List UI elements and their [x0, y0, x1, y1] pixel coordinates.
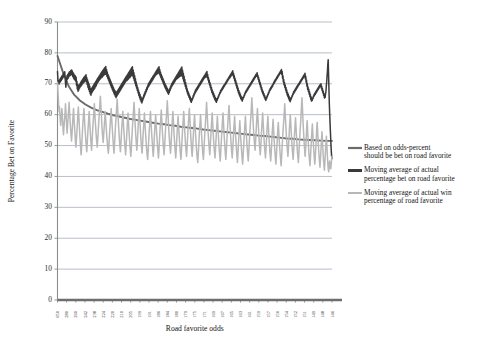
x-tick-label: 165 — [229, 310, 234, 318]
x-axis-title: Road favorite odds — [166, 324, 224, 333]
x-tick-label: 280 — [64, 310, 69, 318]
x-tick-label: 171 — [202, 311, 207, 318]
x-tick-label: 210 — [119, 310, 124, 318]
x-tick-label: 186 — [156, 310, 161, 318]
x-tick-label: 156 — [275, 310, 280, 318]
x-tick-label: 159 — [256, 310, 261, 318]
chart-container: 0102030405060708090 65028026024223822422… — [0, 0, 480, 340]
x-tick-label: 167 — [220, 310, 225, 318]
x-tick-label: 152 — [293, 311, 298, 318]
y-tick-label: 80 — [45, 48, 53, 57]
x-tick-label: 179 — [183, 310, 188, 318]
x-tick-label: 151 — [302, 311, 307, 318]
x-tick-label: 163 — [238, 310, 243, 318]
x-tick-label: 169 — [211, 310, 216, 318]
x-tick-label: 242 — [83, 311, 88, 318]
x-tick-label: 149 — [311, 310, 316, 318]
legend-label-2-line2: percentage of road favorite — [364, 196, 443, 205]
y-tick-label: 60 — [45, 109, 53, 118]
x-tick-label: 191 — [147, 311, 152, 318]
gridlines — [58, 22, 333, 269]
x-tick-label: 175 — [192, 310, 197, 318]
y-tick-label: 40 — [45, 171, 53, 180]
x-tick-label: 205 — [128, 310, 133, 318]
legend-label-0-line2: should be bet on road favorite — [364, 151, 451, 160]
chart-svg: 0102030405060708090 65028026024223822422… — [0, 0, 480, 340]
legend-label-1-line2: percentage bet on road favorite — [364, 174, 455, 183]
y-tick-label: 20 — [45, 233, 53, 242]
x-tick-label: 238 — [92, 310, 97, 318]
x-tick-label: 157 — [266, 310, 271, 318]
chart-legend: Based on odds-percentshould be bet on ro… — [348, 143, 455, 206]
x-tick-label: 220 — [110, 310, 115, 318]
x-tick-label: 146 — [330, 310, 335, 318]
x-tick-label: 650 — [55, 310, 60, 318]
y-tick-label: 30 — [45, 202, 53, 211]
x-tick-label: 161 — [247, 311, 252, 318]
series-line-1 — [58, 60, 333, 159]
data-series — [58, 56, 333, 172]
x-tick-label: 154 — [284, 310, 289, 318]
y-tick-label: 70 — [45, 78, 53, 87]
y-tick-label: 10 — [45, 264, 53, 273]
x-axis-ticks: 6502802602422382242202102051991911861841… — [55, 300, 335, 318]
y-axis-title: Percentage Bet on Favorite — [7, 119, 16, 202]
x-tick-label: 184 — [165, 310, 170, 318]
y-axis-ticks: 0102030405060708090 — [45, 17, 58, 304]
x-tick-label: 199 — [137, 310, 142, 318]
x-tick-label: 260 — [73, 310, 78, 318]
y-tick-label: 90 — [45, 17, 53, 26]
x-tick-label: 148 — [320, 310, 325, 318]
x-tick-label: 180 — [174, 310, 179, 318]
x-tick-label: 224 — [101, 310, 106, 318]
y-tick-label: 0 — [48, 295, 52, 304]
series-line-2 — [58, 82, 333, 172]
y-tick-label: 50 — [45, 140, 53, 149]
